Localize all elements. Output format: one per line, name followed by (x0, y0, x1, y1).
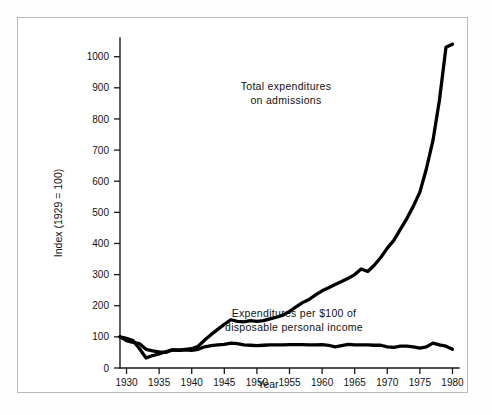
x-axis: 1930193519401945195019551960196519701975… (115, 368, 464, 388)
series-line (120, 337, 452, 353)
x-tick-label: 1980 (441, 377, 464, 388)
x-tick-label: 1975 (409, 377, 432, 388)
x-tick-label: 1940 (181, 377, 204, 388)
y-tick-label: 1000 (87, 51, 110, 62)
x-axis-title: Year (257, 378, 279, 390)
x-tick-label: 1945 (213, 377, 236, 388)
x-tick-label: 1935 (148, 377, 171, 388)
y-tick-label: 100 (92, 331, 109, 342)
y-tick-label: 0 (103, 363, 109, 374)
y-tick-label: 200 (92, 300, 109, 311)
y-tick-label: 400 (92, 238, 109, 249)
total-expenditures-annotation-line2: on admissions (250, 94, 321, 106)
x-tick-label: 1965 (344, 377, 367, 388)
y-tick-label: 500 (92, 207, 109, 218)
x-tick-label: 1930 (115, 377, 138, 388)
y-tick-label: 300 (92, 269, 109, 280)
x-tick-label: 1960 (311, 377, 334, 388)
share-annotation-line1: Expenditures per $100 of (232, 307, 357, 319)
y-axis: 01002003004005006007008009001000 (87, 38, 120, 374)
figure-frame: 01002003004005006007008009001000 1930193… (17, 17, 468, 393)
x-tick-label: 1970 (376, 377, 399, 388)
line-chart: 01002003004005006007008009001000 1930193… (18, 18, 467, 392)
y-tick-label: 600 (92, 176, 109, 187)
figure-root: 01002003004005006007008009001000 1930193… (0, 0, 492, 415)
share-annotation-line2: disposable personal income (225, 321, 363, 333)
y-tick-label: 800 (92, 114, 109, 125)
x-tick-label: 1955 (278, 377, 301, 388)
y-axis-title: Index (1929 = 100) (52, 169, 64, 257)
total-expenditures-annotation-line1: Total expenditures (241, 80, 332, 92)
y-tick-label: 900 (92, 82, 109, 93)
y-tick-label: 700 (92, 145, 109, 156)
